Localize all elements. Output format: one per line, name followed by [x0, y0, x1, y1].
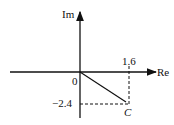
im-axis-label: Im: [62, 8, 75, 20]
im-tick-label: −2.4: [52, 97, 72, 109]
re-tick-label: 1.6: [122, 55, 136, 67]
origin-label: 0: [72, 75, 78, 87]
complex-plane-diagram: Im Re 0 1.6 −2.4 C: [0, 0, 174, 125]
vector-c: [80, 72, 126, 102]
point-c-label: C: [124, 106, 132, 118]
re-axis-label: Re: [157, 66, 169, 78]
